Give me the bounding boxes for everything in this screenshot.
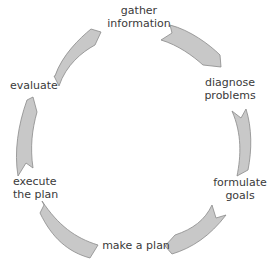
step-execute-the-plan: execute the plan	[13, 175, 73, 201]
arrow-diagnose-to-formulate	[232, 109, 251, 176]
step-evaluate: evaluate	[10, 79, 70, 92]
cycle-arrows	[0, 0, 274, 269]
step-gather-information: gather information	[104, 4, 174, 30]
step-diagnose-problems: diagnose problems	[195, 76, 265, 102]
arrow-gather-to-diagnose	[161, 25, 221, 67]
arrow-plan-to-execute	[40, 201, 98, 258]
step-formulate-goals: formulate goals	[205, 176, 274, 202]
arrow-evaluate-to-gather	[54, 29, 101, 86]
step-make-a-plan: make a plan	[96, 239, 176, 252]
arrow-execute-to-evaluate	[16, 97, 37, 176]
